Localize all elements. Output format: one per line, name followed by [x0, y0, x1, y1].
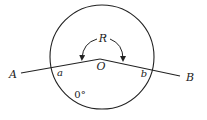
arrow-arc-right: [110, 39, 123, 59]
circle: [50, 5, 154, 109]
arrow-arc-left: [82, 39, 97, 58]
label-b: b: [141, 68, 147, 79]
label-R: R: [98, 32, 107, 45]
label-B: B: [185, 71, 194, 84]
label-a: a: [57, 67, 63, 78]
label-zero-degrees: 0°: [74, 89, 85, 100]
label-A: A: [8, 68, 17, 81]
geometry-diagram: R O A B a b 0°: [0, 0, 207, 120]
label-O: O: [96, 60, 105, 73]
